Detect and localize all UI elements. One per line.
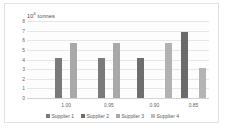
x-axis-tick-label: 1.00 — [61, 103, 71, 108]
y-axis-tick-label: 7 — [7, 28, 25, 33]
legend-swatch-icon — [81, 114, 85, 118]
legend-label: Supplier 4 — [157, 114, 180, 119]
y-axis: 012345678 — [5, 21, 25, 98]
y-axis-title-unit: tonnes — [36, 13, 55, 19]
chart-container: 106 tonnes 012345678 1.000.950.900.85 Su… — [4, 3, 219, 123]
x-axis-tick-label: 0.95 — [104, 103, 114, 108]
y-axis-tick-label: 8 — [7, 19, 25, 24]
legend-item[interactable]: Supplier 2 — [81, 114, 109, 119]
legend-label: Supplier 2 — [86, 114, 109, 119]
y-axis-title: 106 tonnes — [27, 11, 55, 19]
legend-item[interactable]: Supplier 4 — [151, 114, 179, 119]
y-axis-tick-label: 5 — [7, 47, 25, 52]
bar — [98, 58, 105, 98]
y-axis-tick-label: 4 — [7, 57, 25, 62]
y-axis-tick-label: 0 — [7, 96, 25, 101]
y-axis-tick-label: 2 — [7, 76, 25, 81]
legend-swatch-icon — [116, 114, 120, 118]
gridline — [27, 21, 209, 22]
bar — [55, 58, 62, 98]
x-axis-tick-label: 0.85 — [189, 103, 199, 108]
bar — [181, 32, 188, 98]
legend-swatch-icon — [151, 114, 155, 118]
y-axis-tick-label: 6 — [7, 38, 25, 43]
legend-label: Supplier 1 — [51, 114, 74, 119]
y-axis-tick-label: 3 — [7, 67, 25, 72]
legend-swatch-icon — [46, 114, 50, 118]
chart-legend: Supplier 1Supplier 2Supplier 3Supplier 4 — [5, 111, 220, 121]
bar — [70, 43, 77, 98]
y-axis-tick-label: 1 — [7, 86, 25, 91]
x-axis: 1.000.950.900.85 — [27, 99, 209, 108]
plot-area — [27, 21, 209, 98]
legend-label: Supplier 3 — [122, 114, 145, 119]
bar — [113, 43, 120, 98]
bar — [165, 43, 172, 98]
legend-item[interactable]: Supplier 3 — [116, 114, 144, 119]
bar — [199, 68, 206, 98]
bar — [137, 58, 144, 98]
x-axis-tick-label: 0.90 — [150, 103, 160, 108]
legend-item[interactable]: Supplier 1 — [46, 114, 74, 119]
